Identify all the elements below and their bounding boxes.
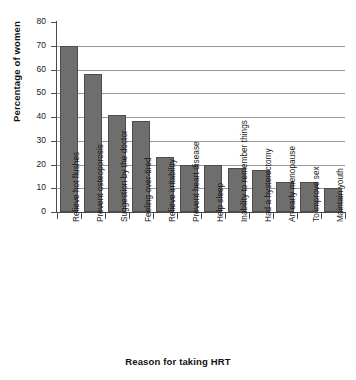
x-tick-label: Maintain youth [336,168,345,222]
x-tick-label: To improve sex [312,166,321,222]
x-tick-mark [297,213,298,219]
y-tick-label: 10 [8,183,46,192]
x-tick-label: Prevent osteoporosis [96,144,105,222]
x-tick-label: Suggestion by the doctor [120,130,129,222]
gridline [57,70,345,71]
x-tick-label: Inability to remember things [240,120,249,222]
x-tick-label: Relieve irritability [168,159,177,222]
x-tick-mark [345,213,346,219]
x-tick-label: Relieve hot flushes [72,152,81,222]
x-tick-mark [321,213,322,219]
x-tick-label: Prevent heart disease [192,141,201,222]
x-axis-title: Reason for taking HRT [0,356,356,367]
y-tick-label: 70 [8,41,46,50]
x-tick-mark [129,213,130,219]
y-tick-label: 60 [8,65,46,74]
bar-chart: Percentage of women 01020304050607080 Re… [0,0,356,380]
x-tick-mark [249,213,250,219]
x-tick-label: Had a hysterectomy [264,148,273,222]
x-tick-label: Feeling over-tired [144,157,153,222]
x-tick-label: An early menopause [288,146,297,222]
y-tick-label: 50 [8,88,46,97]
y-tick-label: 20 [8,160,46,169]
y-tick-label: 30 [8,136,46,145]
x-tick-mark [273,213,274,219]
y-tick-label-wrap: 80 [0,17,356,18]
x-tick-mark [177,213,178,219]
y-axis-line [56,21,57,213]
gridline [57,46,345,47]
y-tick-label: 80 [8,17,46,26]
x-tick-label: Help sleep [216,183,225,222]
y-tick-label: 0 [8,207,46,216]
x-tick-mark [105,213,106,219]
x-tick-mark [153,213,154,219]
x-tick-mark [81,213,82,219]
x-tick-mark [201,213,202,219]
y-tick-label: 40 [8,112,46,121]
x-tick-mark [57,213,58,219]
x-tick-mark [225,213,226,219]
